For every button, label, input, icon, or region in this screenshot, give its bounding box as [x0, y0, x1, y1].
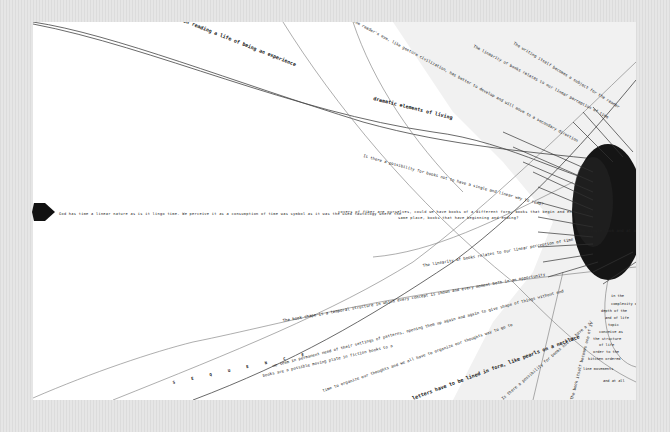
svg-text:depth of the: depth of the	[601, 309, 627, 313]
svg-text:topic: topic	[608, 323, 619, 327]
svg-text:and of life: and of life	[605, 316, 629, 320]
svg-text:of life: of life	[599, 343, 614, 347]
arrow-marker-icon	[31, 201, 57, 223]
text-mid-right-2: same place, books that have beginning an…	[398, 216, 519, 220]
artwork-panel: Why single look and at all In reading a …	[33, 22, 636, 400]
svg-text:order to the: order to the	[593, 350, 619, 354]
svg-text:in the: in the	[611, 294, 624, 298]
dense-label: Why single look and at all	[578, 228, 636, 233]
typographic-artwork: Why single look and at all In reading a …	[33, 22, 636, 400]
svg-text:conceive as: conceive as	[599, 330, 623, 334]
text-mid-right-1: covers of fiber are ourselves, could we …	[338, 210, 592, 214]
svg-text:complexity of: complexity of	[611, 302, 636, 306]
text-top-a: In reading a life of being an experience	[183, 22, 297, 67]
svg-text:kitchen ordered: kitchen ordered	[588, 357, 620, 361]
svg-text:line movements: line movements	[583, 367, 613, 371]
text-top-b: dramatic elements of living	[373, 95, 454, 121]
svg-text:and at all: and at all	[603, 379, 625, 383]
svg-text:the structure: the structure	[593, 337, 621, 341]
